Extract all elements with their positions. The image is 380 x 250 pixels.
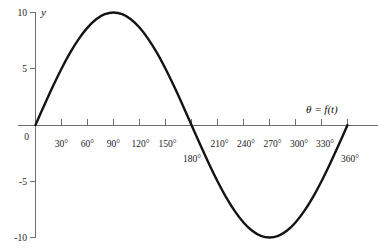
chart-screenshot: 10 5 0 -5 -10 30° 60° 90° 120° 150° 210°… [0,0,380,250]
y-tick-label-5: 5 [22,64,27,74]
x-tick-label-360: 360° [341,154,359,164]
x-axis-label: θ = f(t) [306,103,338,116]
axes-group [18,12,378,238]
y-tick-label-0: 0 [24,132,29,142]
x-tick-label-330: 330° [316,139,334,149]
x-tick-label-210: 210° [210,139,228,149]
y-tick-label-neg5: -5 [19,177,27,187]
x-tick-label-150: 150° [158,139,176,149]
x-tick-label-270: 270° [263,139,281,149]
x-tick-label-90: 90° [107,139,121,149]
sine-wave-chart: 10 5 0 -5 -10 30° 60° 90° 120° 150° 210°… [0,0,380,250]
x-tick-label-60: 60° [81,139,95,149]
y-tick-label-neg10: -10 [14,233,27,243]
y-tick-label-10: 10 [18,8,28,18]
x-tick-label-240: 240° [237,139,255,149]
x-tick-label-300: 300° [290,139,308,149]
x-tick-label-180: 180° [183,154,201,164]
x-tick-label-30: 30° [55,139,69,149]
y-axis-label: y [40,6,46,18]
x-axis-ticks [62,119,348,126]
x-tick-label-120: 120° [131,139,149,149]
